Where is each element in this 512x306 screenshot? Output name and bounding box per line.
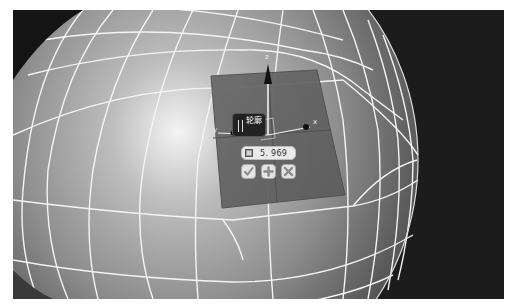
confirm-button[interactable] xyxy=(241,164,256,179)
grip-icon[interactable] xyxy=(238,120,243,132)
checkmark-icon xyxy=(243,166,254,177)
plus-icon xyxy=(263,166,274,177)
tool-title-label: 轮廓 xyxy=(246,116,262,126)
tool-tag[interactable]: 轮廓 xyxy=(232,113,266,137)
distance-value[interactable]: 5. 969 xyxy=(260,149,287,158)
unit-square-icon xyxy=(245,149,253,157)
add-button[interactable] xyxy=(261,164,276,179)
x-axis-label: x xyxy=(313,118,317,126)
cancel-button[interactable] xyxy=(281,164,296,179)
distance-value-field[interactable]: 5. 969 xyxy=(241,146,296,160)
x-icon xyxy=(283,166,294,177)
z-axis-label: z xyxy=(265,53,269,61)
x-handle-icon[interactable] xyxy=(303,124,309,130)
y-axis-label: y xyxy=(213,126,217,134)
sphere-mesh[interactable] xyxy=(13,10,418,299)
